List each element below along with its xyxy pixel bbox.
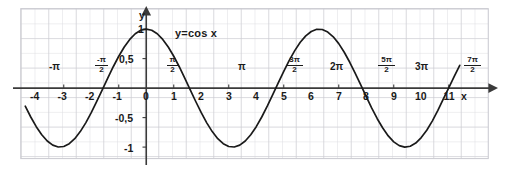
x-tick-label-7: 7 <box>336 91 342 102</box>
fraction-denominator: 2 <box>378 66 395 74</box>
x-tick-label-10: 10 <box>415 91 427 102</box>
x-tick-label-3: 3 <box>226 91 232 102</box>
x-tick-label-7pi-half: 7π 2 <box>464 56 481 74</box>
x-tick-label-2pi: 2π <box>330 62 343 72</box>
fraction-denominator: 2 <box>286 66 303 74</box>
x-tick-label-5pi-half: 5π 2 <box>378 56 395 74</box>
x-tick-label-minus-pi-half: -π 2 <box>95 56 108 74</box>
x-tick-label--3: -3 <box>58 91 67 102</box>
y-tick-label-0-5: 0,5 <box>119 54 134 65</box>
fraction-denominator: 2 <box>167 66 178 74</box>
y-tick-label--0-5: -0,5 <box>115 113 133 124</box>
fraction-denominator: 2 <box>464 66 481 74</box>
x-axis-label: x <box>461 91 467 102</box>
x-tick-label-5: 5 <box>281 91 287 102</box>
x-tick-label-pi-half: π 2 <box>167 56 178 74</box>
fraction-numerator: 5π <box>378 56 395 64</box>
x-tick-label-2: 2 <box>198 91 204 102</box>
x-tick-label--2: -2 <box>85 91 94 102</box>
y-axis-label: y <box>139 10 145 21</box>
x-tick-label--1: -1 <box>113 91 122 102</box>
fraction-numerator: -π <box>95 56 108 64</box>
x-tick-label-8: 8 <box>363 91 369 102</box>
x-tick-label-6: 6 <box>308 91 314 102</box>
x-tick-label-pi: π <box>238 62 246 72</box>
x-tick-label-3pi-half: 3π 2 <box>286 56 303 74</box>
x-tick-label-3pi: 3π <box>415 62 428 72</box>
fraction-denominator: 2 <box>95 66 108 74</box>
y-tick-label-1: 1 <box>138 24 144 35</box>
cosine-function-graph: -4 -3 -2 -1 0 1 2 3 4 5 6 7 8 9 10 11 1 … <box>0 0 506 169</box>
y-tick-label--1: -1 <box>124 143 133 154</box>
fraction-numerator: 7π <box>464 56 481 64</box>
x-tick-label-9: 9 <box>391 91 397 102</box>
x-tick-label-1: 1 <box>171 91 177 102</box>
grid-layer <box>21 9 489 159</box>
x-tick-label-0: 0 <box>143 91 149 102</box>
curve-equation-label: y=cos x <box>175 28 217 39</box>
x-tick-label-11: 11 <box>444 91 455 102</box>
major-gridlines <box>21 9 489 159</box>
fraction-numerator: π <box>167 56 178 64</box>
plot-canvas <box>0 0 506 169</box>
x-tick-label-4: 4 <box>253 91 259 102</box>
x-tick-label--4: -4 <box>30 91 39 102</box>
x-tick-label-minus-pi: -π <box>49 62 60 72</box>
fraction-numerator: 3π <box>286 56 303 64</box>
